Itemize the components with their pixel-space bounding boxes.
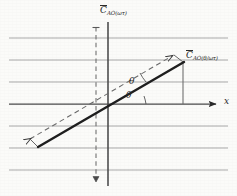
dashed-parallel-vector [30,55,183,147]
angle-arcs [140,73,146,104]
vertical-axis-label: CAO(ωτ) [100,5,127,16]
dashed-vertical-bottom-arrow [93,177,99,183]
vector-diagram-figure: CAO(ωτ) CAO(θ/ωτ) x θ θ [0,0,237,196]
angle-label-lower: θ [126,91,131,100]
dashed-connector-left [30,139,38,147]
x-axis-label: x [224,97,229,106]
vertical-axis-label-symbol: C [100,5,107,15]
dashed-connector-right [174,55,183,62]
angle-arc-upper [140,73,146,82]
diagonal-vector-label-subscript: AO(θ/ωτ) [193,55,218,61]
diagram-canvas [0,0,237,196]
angle-label-upper: θ [129,77,134,86]
diagonal-vector-label-symbol: C [186,50,193,60]
diagonal-vector-label: CAO(θ/ωτ) [186,50,218,61]
angle-arc-lower [144,96,146,104]
vertical-axis-label-subscript: AO(ωτ) [107,10,127,16]
